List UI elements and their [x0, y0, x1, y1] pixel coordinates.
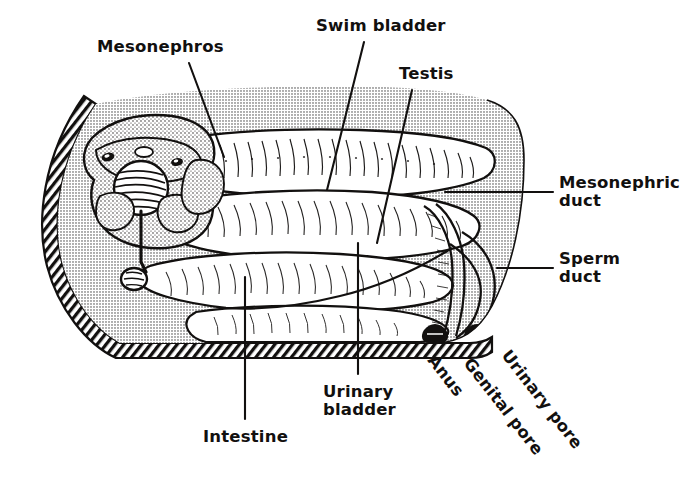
label-testis: Testis — [399, 65, 454, 83]
mesonephros-organ — [84, 115, 224, 248]
urinary-pore-opening — [492, 322, 518, 343]
label-mesonephros: Mesonephros — [97, 38, 224, 56]
label-intestine: Intestine — [203, 428, 288, 446]
label-sperm-duct: Sperm duct — [559, 250, 620, 287]
label-mesonephric-duct: Mesonephric duct — [559, 174, 680, 211]
anatomical-diagram-figure: Mesonephros Swim bladder Testis Mesoneph… — [0, 0, 697, 491]
label-swim-bladder: Swim bladder — [316, 17, 446, 35]
label-urinary-bladder: Urinary bladder — [323, 383, 396, 420]
